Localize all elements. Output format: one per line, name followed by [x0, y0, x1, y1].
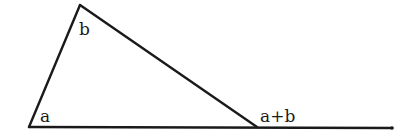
label-angle-a: a [40, 106, 50, 126]
triangle-exterior-angle-diagram: a b a+b [0, 0, 409, 140]
label-angle-b: b [79, 19, 90, 39]
baseline-extended [29, 127, 392, 128]
side-left [29, 5, 80, 127]
label-exterior-angle: a+b [260, 106, 295, 126]
baseline-end-point [390, 126, 394, 130]
side-right [80, 5, 257, 127]
